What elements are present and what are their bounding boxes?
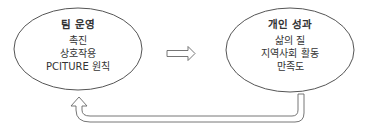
- node-item: 지역사회 활동: [230, 47, 350, 60]
- node-item: 만족도: [230, 60, 350, 73]
- node-item: 삶의 질: [230, 34, 350, 47]
- node-individual-outcome: 개인 성과 삶의 질 지역사회 활동 만족도: [230, 17, 350, 73]
- node-item: 상호작용: [18, 47, 138, 60]
- node-team-operation: 팀 운영 촉진 상호작용 PCITURE 원칙: [18, 17, 138, 73]
- feedback-arrow-icon: [71, 94, 304, 122]
- node-title: 팀 운영: [18, 17, 138, 31]
- forward-arrow-icon: [167, 47, 195, 61]
- node-item: PCITURE 원칙: [18, 60, 138, 73]
- node-title: 개인 성과: [230, 17, 350, 31]
- node-item: 촉진: [18, 34, 138, 47]
